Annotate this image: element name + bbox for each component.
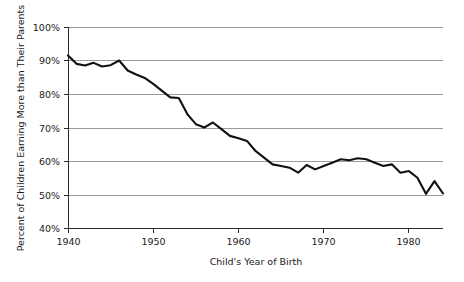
data-series-line (68, 55, 443, 193)
y-tick-label-70: 70% (39, 123, 60, 134)
y-tick-marks (64, 28, 68, 229)
y-tick-label-50: 50% (39, 190, 60, 201)
y-axis-title: Percent of Children Earning More than Th… (15, 5, 26, 252)
axes-group (68, 27, 443, 229)
x-tick-label-1970: 1970 (311, 236, 335, 247)
chart-figure: 100% 90% 80% 70% 60% 50% 40% 1940 1950 1… (0, 0, 464, 282)
y-tick-label-100: 100% (33, 22, 60, 33)
gridlines-group (68, 28, 443, 196)
x-tick-labels: 1940 1950 1960 1970 1980 (56, 236, 420, 247)
x-tick-label-1950: 1950 (141, 236, 165, 247)
x-axis-title: Child's Year of Birth (210, 256, 303, 267)
y-tick-label-40: 40% (39, 223, 60, 234)
y-tick-label-60: 60% (39, 156, 60, 167)
x-tick-label-1940: 1940 (56, 236, 80, 247)
x-tick-label-1960: 1960 (226, 236, 250, 247)
x-tick-label-1980: 1980 (396, 236, 420, 247)
line-chart: 100% 90% 80% 70% 60% 50% 40% 1940 1950 1… (0, 0, 464, 282)
y-tick-label-80: 80% (39, 89, 60, 100)
y-tick-label-90: 90% (39, 55, 60, 66)
y-tick-labels: 100% 90% 80% 70% 60% 50% 40% (33, 22, 60, 234)
